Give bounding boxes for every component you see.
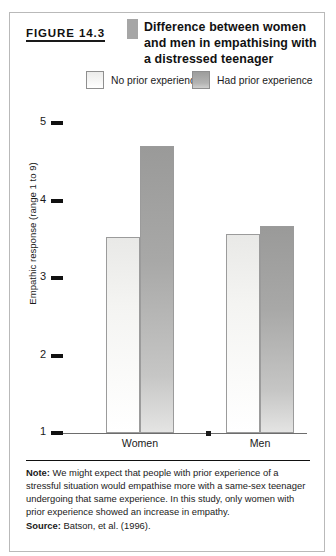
y-tick-mark — [51, 431, 63, 435]
x-tick-label-men: Men — [215, 437, 305, 449]
x-tick-label-women: Women — [95, 437, 185, 449]
y-tick-label: 2 — [32, 348, 46, 360]
x-axis-mid-tick — [206, 431, 211, 436]
y-tick-label: 5 — [32, 115, 46, 127]
note-body-text: We might expect that people with prior e… — [26, 467, 305, 517]
bar-men-no-prior-experience — [226, 234, 260, 433]
figure-note: Note: We might expect that people with p… — [26, 466, 314, 518]
bar-women-had-prior-experience — [140, 146, 174, 433]
y-tick-mark — [51, 354, 63, 358]
bar-men-had-prior-experience — [260, 226, 294, 433]
note-lead-label: Note: — [26, 467, 50, 478]
y-tick-label: 3 — [32, 270, 46, 282]
x-axis-line — [63, 433, 307, 434]
y-tick-mark — [51, 276, 63, 280]
bar-women-no-prior-experience — [106, 237, 140, 433]
figure-frame: FIGURE 14.3 Difference between women and… — [9, 12, 325, 552]
footnote-divider — [26, 460, 310, 461]
y-axis-label: Empathic response (range 1 to 9) — [27, 159, 38, 309]
y-tick-mark — [51, 121, 63, 125]
source-body-text: Batson, et al. (1996). — [61, 520, 151, 531]
y-tick-label: 1 — [32, 425, 46, 437]
y-tick-label: 4 — [32, 193, 46, 205]
figure-source: Source: Batson, et al. (1996). — [26, 519, 314, 532]
source-lead-label: Source: — [26, 520, 61, 531]
y-tick-mark — [51, 199, 63, 203]
